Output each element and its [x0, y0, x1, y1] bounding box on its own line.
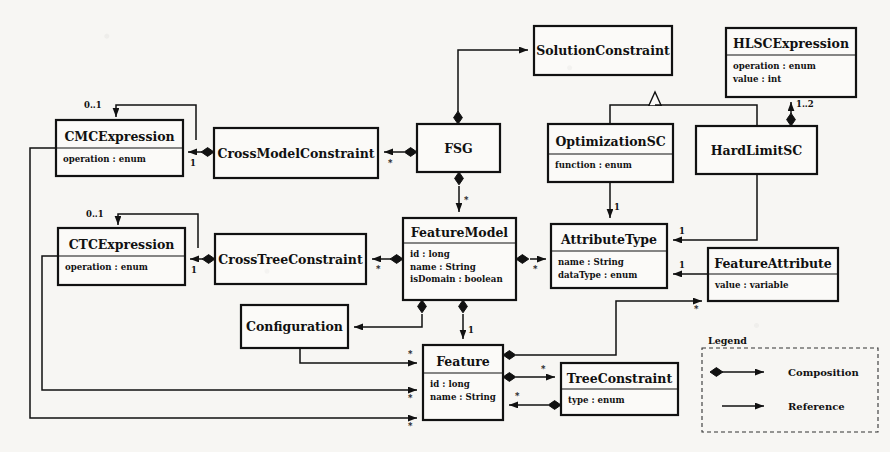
edge-featuremodel-feature[interactable]: 1 [459, 300, 474, 339]
multiplicity-label: * [694, 304, 699, 314]
class-attribute: id : long [430, 379, 470, 389]
class-name: SolutionConstraint [536, 43, 670, 58]
composition-diamond [201, 148, 214, 157]
multiplicity-label: 1 [614, 202, 620, 212]
class-name: AttributeType [560, 232, 657, 247]
class-box-ctcexpression[interactable]: CTCExpressionoperation : enum [58, 228, 185, 285]
class-box-treeconstraint[interactable]: TreeConstrainttype : enum [561, 363, 678, 415]
multiplicity-label: * [408, 349, 413, 359]
composition-diamond [459, 300, 468, 313]
class-name: CMCExpression [64, 129, 174, 144]
multiplicity-label: 0..1 [86, 209, 104, 219]
composition-diamond [455, 172, 464, 185]
class-name: FSG [444, 141, 473, 156]
multiplicity-label: 1 [679, 226, 685, 236]
edge-fsg-featuremodel[interactable]: * [455, 172, 469, 212]
class-box-hardlimitsc[interactable]: HardLimitSC [696, 126, 817, 174]
edge-solutionconstraint-optimizationsc[interactable] [610, 92, 655, 124]
legend-item-label: Composition [788, 367, 859, 378]
class-box-crossmodelconstraint[interactable]: CrossModelConstraint [214, 128, 378, 178]
class-box-optimizationsc[interactable]: OptimizationSCfunction : enum [548, 124, 673, 182]
diagram-canvas: 1..20..11**0..11**1111****** SolutionCon… [0, 0, 890, 452]
edge-hardlimitsc-hlscexpression[interactable]: 1..2 [787, 99, 814, 126]
class-name: HardLimitSC [711, 143, 803, 158]
class-box-feature[interactable]: Featureid : longname : String [423, 345, 503, 420]
edge-line [610, 92, 655, 124]
class-attribute: value : variable [714, 280, 789, 290]
class-attribute: name : String [558, 257, 624, 267]
multiplicity-label: * [464, 195, 469, 205]
class-attribute: operation : enum [63, 154, 146, 164]
edge-configuration-feature[interactable]: * [300, 348, 417, 363]
edge-crossmodelconstraint-cmcexpression[interactable]: 1 [188, 148, 214, 168]
class-attribute: operation : enum [65, 262, 148, 272]
edge-featuremodel-attributetype[interactable]: * [516, 255, 546, 274]
class-name: HLSCExpression [733, 36, 849, 51]
composition-diamond [503, 373, 516, 382]
multiplicity-label: 1 [190, 158, 196, 168]
legend-reference: Reference [722, 401, 845, 412]
composition-diamond [404, 148, 417, 157]
class-attribute: operation : enum [733, 61, 816, 71]
edge-line [655, 105, 757, 126]
class-box-hlscexpression[interactable]: HLSCExpressionoperation : enumvalue : in… [726, 28, 856, 97]
class-attribute: dataType : enum [558, 270, 637, 280]
edge-cmcexpression-feature[interactable]: * [30, 148, 417, 431]
composition-diamond [390, 255, 403, 264]
class-box-featureattribute[interactable]: FeatureAttributevalue : variable [708, 248, 838, 301]
legend-composition: Composition [710, 367, 859, 378]
edge-feature-treeconstraint[interactable]: * [503, 364, 555, 381]
class-box-fsg[interactable]: FSG [417, 124, 500, 172]
edge-featuremodel-crosstreeconstraint[interactable]: * [372, 255, 403, 274]
edge-featuremodel-configuration[interactable] [354, 300, 426, 327]
edge-crosstreeconstraint-ctcexpression[interactable]: 1 [190, 255, 215, 275]
edge-solutionconstraint-hardlimitsc[interactable] [655, 105, 757, 126]
multiplicity-label: 1 [468, 325, 474, 335]
class-attribute: name : String [410, 262, 476, 272]
class-attribute: value : int [732, 74, 781, 84]
composition-diamond [418, 300, 427, 313]
edge-featureattribute-attributetype[interactable]: 1 [673, 260, 708, 274]
multiplicity-label: 1 [679, 260, 685, 270]
composition-diamond [454, 111, 463, 124]
edge-line [300, 348, 417, 363]
edge-feature-featureattribute[interactable]: * [503, 301, 702, 359]
class-name: FeatureModel [411, 225, 509, 240]
multiplicity-label: * [376, 264, 381, 274]
edge-fsg-crossmodelconstraint[interactable]: * [384, 148, 417, 168]
composition-diamond [503, 351, 516, 360]
class-name: Configuration [246, 319, 343, 334]
class-name: OptimizationSC [555, 134, 665, 149]
edge-treeconstraint-feature[interactable]: * [509, 391, 561, 409]
multiplicity-label: 1 [191, 265, 197, 275]
class-name: TreeConstraint [567, 371, 673, 386]
edge-line [673, 174, 757, 240]
edge-fsg-solutionconstraint[interactable] [454, 50, 528, 124]
legend-frame [702, 348, 878, 432]
class-box-featuremodel[interactable]: FeatureModelid : longname : StringisDoma… [403, 218, 516, 300]
class-box-solutionconstraint[interactable]: SolutionConstraint [534, 26, 672, 75]
edge-optimizationsc-attributetype[interactable]: 1 [610, 182, 620, 218]
edge-line [458, 50, 528, 112]
class-name: CTCExpression [69, 237, 175, 252]
composition-diamond [787, 113, 796, 126]
class-attribute: type : enum [568, 395, 625, 405]
class-box-outline [548, 124, 673, 182]
edge-hardlimitsc-attributetype[interactable]: 1 [673, 174, 757, 240]
class-name: CrossTreeConstraint [218, 252, 363, 267]
class-box-crosstreeconstraint[interactable]: CrossTreeConstraint [215, 234, 366, 284]
multiplicity-label: 1..2 [796, 99, 814, 109]
legend: LegendCompositionReference [702, 335, 878, 432]
class-box-configuration[interactable]: Configuration [241, 305, 348, 348]
composition-diamond [516, 255, 529, 264]
multiplicity-label: * [515, 391, 520, 401]
class-box-cmcexpression[interactable]: CMCExpressionoperation : enum [56, 120, 183, 176]
class-attribute: isDomain : boolean [410, 274, 503, 284]
edge-line [516, 301, 702, 355]
class-attribute: name : String [430, 392, 496, 402]
composition-diamond [548, 401, 561, 410]
class-attribute: id : long [410, 249, 450, 259]
class-name: CrossModelConstraint [217, 146, 374, 161]
legend-title: Legend [708, 335, 747, 346]
class-box-attributetype[interactable]: AttributeTypename : StringdataType : enu… [551, 224, 667, 288]
